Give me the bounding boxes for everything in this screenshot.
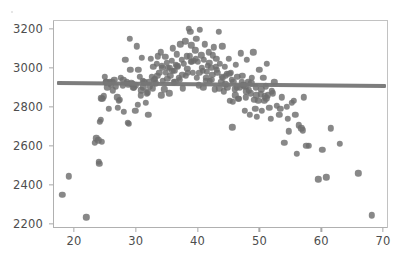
x-axis-tick-mark	[259, 228, 260, 232]
scatter-point	[192, 47, 198, 53]
axis-spine-left	[53, 20, 54, 228]
scatter-point	[256, 67, 262, 73]
scatter-point	[210, 44, 216, 50]
scatter-point	[202, 41, 208, 47]
x-axis-tick-label: 20	[66, 234, 81, 248]
scatter-point	[105, 106, 111, 112]
scatter-plot-figure: 220024002600280030003200 203040506070	[0, 0, 403, 259]
scatter-point	[254, 113, 260, 119]
scatter-point	[219, 43, 225, 49]
axis-spine-top	[53, 20, 388, 21]
scatter-point	[126, 120, 132, 126]
scatter-point	[277, 106, 283, 112]
x-axis-tick-label: 50	[252, 234, 267, 248]
scatter-point	[196, 70, 202, 76]
scatter-point	[158, 92, 164, 98]
scatter-point	[145, 112, 151, 118]
axis-spine-right	[387, 20, 388, 228]
scatter-point	[300, 127, 306, 133]
x-axis-tick-label: 30	[128, 234, 143, 248]
scatter-point	[291, 98, 297, 104]
scatter-point	[266, 105, 272, 111]
scatter-point	[355, 170, 361, 176]
scatter-point	[260, 74, 266, 80]
scatter-point	[229, 124, 235, 130]
scatter-point	[293, 151, 299, 157]
scatter-point	[99, 139, 105, 145]
scatter-point	[286, 128, 292, 134]
scatter-point	[250, 49, 256, 55]
scatter-point	[259, 108, 265, 114]
scatter-point	[183, 72, 189, 78]
scatter-point	[323, 174, 329, 180]
x-axis-tick-label: 70	[376, 234, 391, 248]
scatter-point	[315, 176, 321, 182]
x-axis-tick-mark	[197, 228, 198, 232]
x-axis-tick-label: 40	[190, 234, 205, 248]
x-axis-tick-mark	[321, 228, 322, 232]
scatter-point	[135, 67, 141, 73]
y-axis-tick-label: 2200	[13, 217, 43, 231]
x-axis-ticks: 203040506070	[53, 228, 388, 256]
scatter-point	[236, 96, 242, 102]
x-axis-tick-mark	[135, 228, 136, 232]
y-axis-tick-label: 2800	[13, 100, 43, 114]
data-layer	[53, 20, 388, 228]
x-axis-tick-label: 60	[314, 234, 329, 248]
scatter-point	[222, 64, 228, 70]
scatter-point	[134, 43, 140, 49]
scatter-point	[252, 106, 258, 112]
scatter-point	[215, 29, 221, 35]
y-axis-tick-label: 2400	[13, 178, 43, 192]
scatter-point	[230, 99, 236, 105]
scatter-point	[126, 35, 132, 41]
scatter-point	[267, 115, 273, 121]
x-axis-tick-mark	[382, 228, 383, 232]
scatter-point	[147, 56, 153, 62]
scatter-point	[100, 93, 106, 99]
scatter-point	[220, 74, 226, 80]
scatter-point	[337, 141, 343, 147]
scatter-point	[301, 94, 307, 100]
x-axis-tick-mark	[73, 228, 74, 232]
scatter-point	[270, 90, 276, 96]
scatter-point	[233, 62, 239, 68]
scatter-point	[285, 115, 291, 121]
y-axis-tick-label: 3200	[13, 22, 43, 36]
scatter-point	[246, 112, 252, 118]
y-axis-tick-label: 2600	[13, 139, 43, 153]
scatter-point	[122, 57, 128, 63]
scatter-point	[166, 90, 172, 96]
plot-axes-area	[53, 20, 388, 228]
scatter-point	[292, 112, 298, 118]
scatter-point	[244, 57, 250, 63]
y-axis-ticks: 220024002600280030003200	[0, 20, 53, 228]
y-axis-tick-label: 3000	[13, 61, 43, 75]
scatter-point	[127, 67, 133, 73]
scatter-point	[110, 87, 116, 93]
scatter-point	[276, 112, 282, 118]
scatter-point	[264, 61, 270, 67]
scatter-point	[83, 214, 89, 220]
scatter-point	[319, 147, 325, 153]
scatter-point	[134, 102, 140, 108]
scatter-point	[281, 140, 287, 146]
artifact-speck	[11, 11, 13, 13]
scatter-point	[96, 160, 102, 166]
scatter-point	[238, 50, 244, 56]
scatter-point	[306, 143, 312, 149]
scatter-point	[225, 56, 231, 62]
scatter-point	[117, 97, 123, 103]
scatter-point	[258, 86, 264, 92]
scatter-point	[369, 212, 375, 218]
scatter-point	[121, 109, 127, 115]
scatter-point	[197, 27, 203, 33]
scatter-point	[193, 35, 199, 41]
scatter-point	[139, 55, 145, 61]
scatter-point	[66, 173, 72, 179]
scatter-point	[278, 94, 284, 100]
scatter-point	[132, 108, 138, 114]
scatter-point	[59, 192, 65, 198]
scatter-point	[187, 29, 193, 35]
axis-spine-bottom	[53, 227, 388, 228]
